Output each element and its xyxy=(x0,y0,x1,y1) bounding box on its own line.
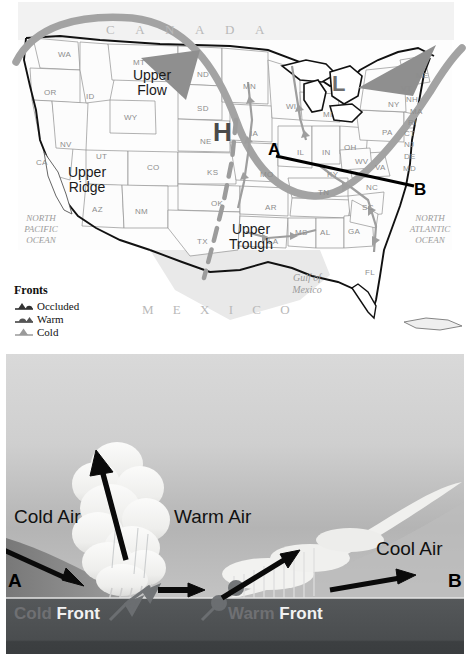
ocean-pacific-line1: NORTH xyxy=(10,213,72,224)
warm-front-label: Warm Front xyxy=(228,604,323,624)
gulf-of-mexico-label: Gulf of Mexico xyxy=(272,272,342,296)
occluded-front-symbol xyxy=(14,300,34,311)
state-label-oh: OH xyxy=(344,143,357,152)
cool-air-label: Cool Air xyxy=(376,538,443,560)
warm-air-label: Warm Air xyxy=(174,506,251,528)
warm-front-symbol xyxy=(14,313,34,324)
state-label-ia: IA xyxy=(250,129,258,138)
state-label-sd: SD xyxy=(197,104,209,113)
state-label-fl: FL xyxy=(365,268,375,277)
state-label-nh: NH xyxy=(406,95,418,104)
state-label-mo: MO xyxy=(260,170,274,179)
state-label-ar: AR xyxy=(265,203,277,212)
state-label-ct: CT xyxy=(404,129,415,138)
state-label-il: IL xyxy=(297,148,304,157)
state-label-or: OR xyxy=(44,88,57,97)
state-label-nj: NJ xyxy=(404,140,414,149)
state-label-mn: MN xyxy=(243,82,256,91)
state-label-nc: NC xyxy=(366,183,378,192)
state-label-ky: KY xyxy=(327,170,338,179)
upper-ridge-line1: Upper xyxy=(58,165,116,180)
state-label-in: IN xyxy=(322,148,331,157)
annotation-upper-flow: Upper Flow xyxy=(124,68,180,98)
upper-trough-line1: Upper xyxy=(218,222,284,237)
cold-front-symbol xyxy=(14,326,34,337)
state-label-pa: PA xyxy=(382,128,393,137)
state-label-wy: WY xyxy=(124,113,138,122)
ocean-pacific-line2: PACIFIC xyxy=(10,224,72,235)
state-label-vt: VT xyxy=(401,84,412,93)
annotation-upper-ridge: Upper Ridge xyxy=(58,165,116,195)
state-label-az: AZ xyxy=(92,205,103,214)
state-label-de: DE xyxy=(404,152,416,161)
state-label-tn: TN xyxy=(318,188,329,197)
ocean-atlantic-line2: ATLANTIC xyxy=(398,224,462,235)
xs-point-b-label: B xyxy=(448,570,462,592)
state-label-me: ME xyxy=(416,71,429,80)
legend-row-cold: Cold xyxy=(14,325,79,338)
legend-title: Fronts xyxy=(14,283,79,298)
high-pressure-symbol: H xyxy=(213,117,232,148)
ocean-label-pacific: NORTH PACIFIC OCEAN xyxy=(10,213,72,246)
state-label-ma: MA xyxy=(410,107,423,116)
low-pressure-symbol: L xyxy=(332,71,345,97)
legend-row-occluded: Occluded xyxy=(14,299,79,312)
state-label-wi: WI xyxy=(286,102,296,111)
ocean-atlantic-line3: OCEAN xyxy=(398,235,462,246)
warm-front-word2: Front xyxy=(279,604,322,623)
state-label-nv: NV xyxy=(60,140,72,149)
state-label-ms: MS xyxy=(295,228,308,237)
legend-label-occluded: Occluded xyxy=(37,300,79,312)
state-label-ks: KS xyxy=(207,168,218,177)
country-label-mexico: M E X I C O xyxy=(142,302,298,318)
state-label-sc: SC xyxy=(362,203,374,212)
gulf-line2: Mexico xyxy=(272,284,342,296)
state-label-ga: GA xyxy=(348,227,360,236)
state-label-wa: WA xyxy=(58,50,71,59)
gulf-line1: Gulf of xyxy=(272,272,342,284)
state-label-mt: MT xyxy=(133,58,145,67)
state-label-ne: NE xyxy=(200,137,212,146)
weather-figure: C A N A D A M E X I C O NORTH PACIFIC OC… xyxy=(0,0,470,658)
ocean-label-atlantic: NORTH ATLANTIC OCEAN xyxy=(398,213,462,246)
state-label-ri: RI xyxy=(408,118,417,127)
state-label-va: VA xyxy=(375,163,386,172)
cold-front-label: Cold Front xyxy=(14,604,100,624)
state-label-co: CO xyxy=(147,163,160,172)
state-label-al: AL xyxy=(320,228,330,237)
state-label-ok: OK xyxy=(211,199,223,208)
legend-label-cold: Cold xyxy=(37,326,58,338)
upper-flow-line2: Flow xyxy=(124,83,180,98)
state-label-id: ID xyxy=(86,92,95,101)
map-point-a-label: A xyxy=(268,140,280,160)
upper-flow-line1: Upper xyxy=(124,68,180,83)
state-label-la: LA xyxy=(268,237,278,246)
warm-front-word1: Warm xyxy=(228,604,275,623)
cold-air-label: Cold Air xyxy=(14,506,81,528)
map-point-b-label: B xyxy=(414,180,426,200)
state-label-md: MD xyxy=(403,164,416,173)
cold-front-word1: Cold xyxy=(14,604,52,623)
state-label-ut: UT xyxy=(96,152,107,161)
ocean-atlantic-line1: NORTH xyxy=(398,213,462,224)
cold-front-word2: Front xyxy=(57,604,100,623)
legend-label-warm: Warm xyxy=(37,313,64,325)
country-label-canada: C A N A D A xyxy=(106,22,273,38)
state-label-tx: TX xyxy=(197,237,208,246)
xs-point-a-label: A xyxy=(8,570,22,592)
state-label-ca: CA xyxy=(36,158,48,167)
state-label-nd: ND xyxy=(197,70,209,79)
frontal-cross-section-panel: Cold Air Warm Air Cool Air A B Cold Fron… xyxy=(0,352,470,658)
upper-air-map-panel: C A N A D A M E X I C O NORTH PACIFIC OC… xyxy=(0,0,470,352)
state-label-wv: WV xyxy=(355,157,369,166)
legend-row-warm: Warm xyxy=(14,312,79,325)
state-label-ny: NY xyxy=(388,100,400,109)
state-label-nm: NM xyxy=(135,207,148,216)
state-label-mi: MI xyxy=(323,110,333,119)
upper-ridge-line2: Ridge xyxy=(58,180,116,195)
fronts-legend: Fronts Occluded Warm xyxy=(14,283,79,338)
ocean-pacific-line3: OCEAN xyxy=(10,235,72,246)
